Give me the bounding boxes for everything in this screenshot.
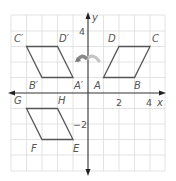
y-axis-label: y (91, 12, 99, 23)
x-tick-2: 2 (116, 97, 122, 108)
y-tick-4: 4 (79, 26, 85, 37)
y-axis-up-arrow-icon (86, 12, 91, 19)
vertex-label-D-prime: D′ (59, 33, 70, 44)
vertex-label-B: B (134, 80, 141, 91)
vertex-label-E: E (73, 143, 80, 154)
y-tick-neg2: −2 (73, 119, 87, 130)
vertex-label-D: D (108, 33, 116, 44)
x-tick-4: 4 (146, 97, 152, 108)
vertex-label-F: F (31, 143, 37, 154)
coordinate-plane: y x 4 −2 2 4 A B C D A′ B′ C′ D′ E F G H (0, 0, 176, 181)
vertex-label-H: H (58, 95, 66, 106)
x-axis-label: x (156, 97, 163, 108)
reflection-arrow-icon (75, 56, 99, 62)
vertex-label-A-prime: A′ (73, 80, 84, 91)
vertex-label-G: G (14, 95, 22, 106)
vertex-label-A: A (93, 80, 101, 91)
vertex-label-B-prime: B′ (29, 80, 39, 91)
y-axis-down-arrow-icon (86, 169, 91, 176)
vertex-label-C-prime: C′ (14, 33, 24, 44)
vertex-label-C: C (152, 33, 159, 44)
